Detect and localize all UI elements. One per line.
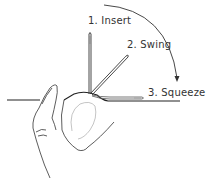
needle-technique-diagram: 1. Insert 2. Swing 3. Squeeze bbox=[0, 0, 206, 186]
step-label-insert: 1. Insert bbox=[88, 15, 131, 26]
needle-insert-icon bbox=[89, 33, 91, 95]
fingernail-shape bbox=[71, 102, 96, 139]
step-label-squeeze: 3. Squeeze bbox=[148, 87, 205, 98]
step-label-swing: 2. Swing bbox=[127, 39, 171, 50]
needle-swing-icon bbox=[90, 55, 128, 95]
